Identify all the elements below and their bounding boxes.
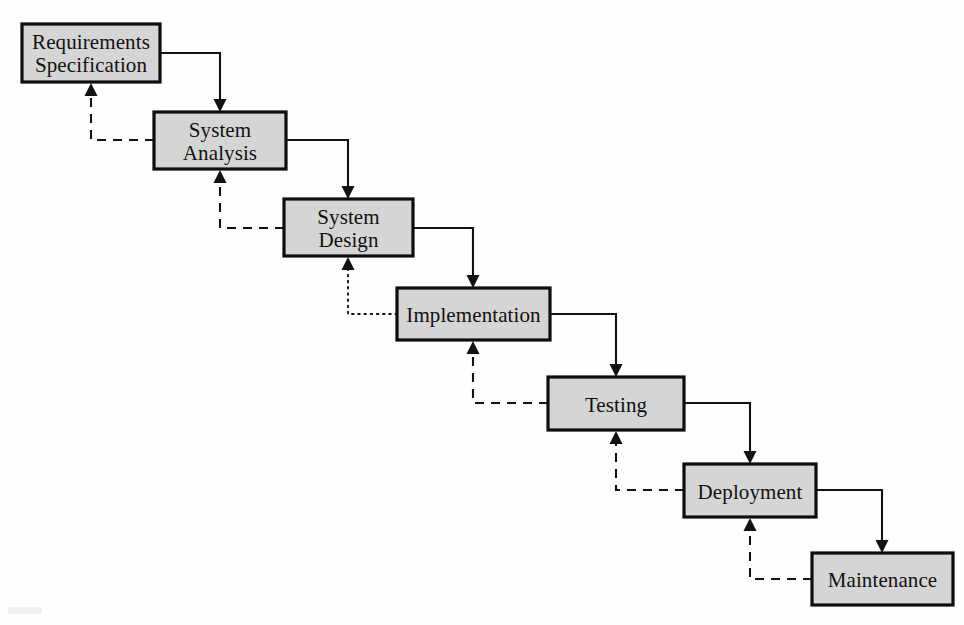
arrow-head-down	[467, 275, 480, 288]
flow-connector-design-to-implementation	[413, 228, 480, 288]
flow-connector-implementation-to-testing	[550, 314, 623, 377]
stage-label-line2: Specification	[35, 53, 147, 77]
stage-box-system-design[interactable]: SystemDesign	[284, 199, 413, 256]
arrow-head-up	[610, 431, 623, 444]
feedback-line-dashed	[616, 443, 684, 490]
arrow-head-up	[85, 83, 98, 96]
stage-box-deployment[interactable]: Deployment	[684, 464, 816, 517]
flow-connector-testing-to-deployment	[684, 403, 757, 464]
waterfall-diagram: RequirementsSpecificationSystemAnalysisS…	[0, 0, 964, 625]
feedback-connector-maintenance-to-deployment	[744, 518, 813, 579]
flow-connector-deployment-to-maintenance	[816, 490, 889, 553]
arrow-head-up	[214, 170, 227, 183]
arrow-head-up	[342, 257, 355, 270]
flow-line	[160, 53, 220, 99]
arrow-head-down	[214, 99, 227, 112]
flow-line	[550, 314, 616, 364]
stage-label: Testing	[585, 393, 648, 417]
stage-label-line2: Design	[318, 228, 378, 252]
feedback-connector-implementation-to-design	[342, 257, 398, 314]
stage-label-line1: System	[317, 205, 379, 229]
flow-line	[816, 490, 882, 540]
feedback-line-dotted	[348, 269, 397, 314]
feedback-line-dashed	[220, 182, 284, 228]
feedback-line-dashed	[750, 530, 812, 579]
arrow-head-down	[744, 451, 757, 464]
stage-box-implementation[interactable]: Implementation	[397, 288, 550, 340]
flow-connector-analysis-to-design	[286, 140, 355, 199]
stage-label-line1: Requirements	[32, 30, 150, 54]
flow-line	[286, 140, 348, 186]
arrow-head-down	[342, 186, 355, 199]
feedback-connector-deployment-to-testing	[610, 431, 685, 490]
scan-artifact	[8, 607, 42, 614]
stage-label: Maintenance	[828, 568, 938, 592]
flow-line	[413, 228, 473, 275]
stage-box-testing[interactable]: Testing	[548, 377, 684, 430]
stage-box-maintenance[interactable]: Maintenance	[812, 553, 953, 605]
arrow-head-up	[744, 518, 757, 531]
stage-box-system-analysis[interactable]: SystemAnalysis	[154, 112, 286, 169]
stage-box-requirements-specification[interactable]: RequirementsSpecification	[22, 24, 160, 82]
stage-label: Implementation	[406, 303, 541, 327]
feedback-line-dashed	[91, 95, 154, 140]
arrow-head-up	[467, 341, 480, 354]
flow-connector-requirements-to-analysis	[160, 53, 227, 112]
feedback-line-dashed	[473, 353, 548, 403]
arrow-head-down	[876, 540, 889, 553]
feedback-connector-analysis-to-requirements	[85, 83, 155, 140]
feedback-connector-testing-to-implementation	[467, 341, 549, 403]
stage-box-layer: RequirementsSpecificationSystemAnalysisS…	[22, 24, 953, 605]
stage-label-line2: Analysis	[183, 141, 257, 165]
waterfall-diagram-canvas: RequirementsSpecificationSystemAnalysisS…	[0, 0, 964, 625]
stage-label: Deployment	[698, 480, 803, 504]
feedback-connector-design-to-analysis	[214, 170, 285, 228]
flow-line	[684, 403, 750, 451]
arrow-head-down	[610, 364, 623, 377]
stage-label-line1: System	[189, 118, 251, 142]
